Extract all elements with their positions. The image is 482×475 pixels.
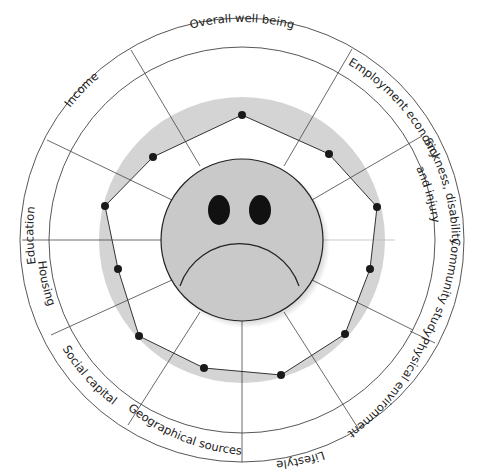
wheel-svg: Overall well being Employment economy Si… <box>0 0 482 475</box>
label-social-capital: Social capital <box>60 343 120 408</box>
wellbeing-wheel-diagram: Overall well being Employment economy Si… <box>0 0 482 475</box>
label-geographical-sources: Geographical sources <box>126 401 243 458</box>
label-community-study: Community study <box>420 238 462 341</box>
label-housing: Housing <box>35 260 59 308</box>
left-eye <box>208 195 230 225</box>
label-lifestyle: Lifestyle <box>276 448 327 472</box>
label-overall-well-being: Overall well being <box>188 11 296 32</box>
right-eye <box>249 195 271 225</box>
label-income: Income <box>61 69 101 110</box>
label-education: Education <box>22 206 38 266</box>
sad-face-icon <box>161 159 330 328</box>
label-physical-environment: Physical environment <box>345 335 432 442</box>
